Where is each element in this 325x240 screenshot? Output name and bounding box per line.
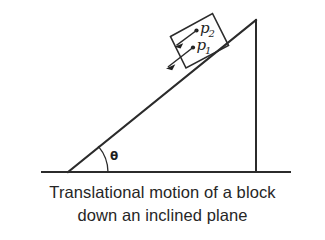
inclined-plane-figure: θ p 2 p 1 Translational motion of a bloc…	[0, 0, 325, 240]
vector-p1-shaft	[169, 48, 194, 67]
vector-label-p2-subscript: 2	[208, 28, 215, 39]
caption-line-2: down an inclined plane	[0, 204, 325, 227]
figure-caption: Translational motion of a block down an …	[0, 181, 325, 227]
angle-label-theta: θ	[110, 149, 118, 163]
vector-label-p1-subscript: 1	[205, 45, 211, 56]
angle-arc	[99, 147, 108, 172]
vector-p2-shaft	[177, 31, 197, 46]
caption-line-1: Translational motion of a block	[0, 181, 325, 204]
